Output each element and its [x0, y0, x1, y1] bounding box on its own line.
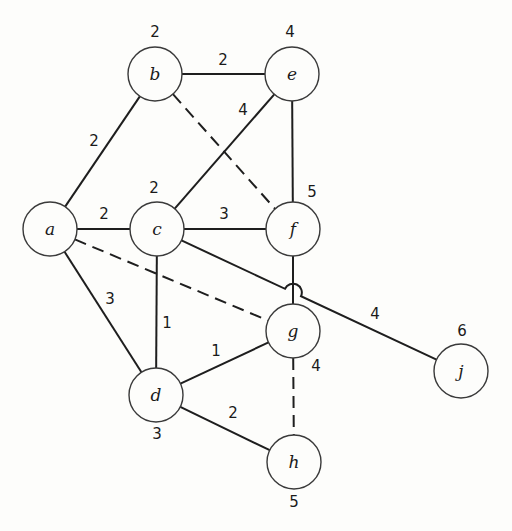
edge-weight-d-g: 1	[211, 342, 221, 360]
edge-weight-c-j: 4	[370, 305, 380, 323]
edge-d-h	[180, 407, 269, 450]
node-e: e4	[265, 23, 319, 101]
node-value: 2	[150, 23, 160, 41]
node-d: d3	[129, 368, 183, 443]
edge-weight-a-c: 2	[99, 205, 109, 223]
edge-weight-c-f: 3	[219, 205, 229, 223]
node-value: 2	[149, 179, 159, 197]
node-a: a	[23, 202, 77, 256]
edge-weight-a-d: 3	[105, 290, 115, 308]
edge-weight-c-e: 4	[238, 101, 248, 119]
node-label: g	[288, 321, 299, 341]
node-label: a	[45, 219, 55, 239]
node-label: c	[152, 219, 162, 239]
edge-weight-b-e: 2	[218, 51, 228, 69]
node-value: 6	[457, 322, 467, 340]
node-layer: ab2c2e4f5g4d3h5j6	[23, 23, 488, 511]
edge-e-f	[292, 101, 293, 202]
node-label: e	[287, 64, 297, 84]
graph-diagram: 2242331124 ab2c2e4f5g4d3h5j6	[0, 0, 512, 531]
node-j: j6	[434, 322, 488, 398]
edge-layer	[65, 74, 437, 450]
node-h: h5	[267, 435, 321, 511]
edge-weight-a-b: 2	[89, 132, 99, 150]
edge-a-d	[65, 252, 142, 372]
edge-weight-d-h: 2	[228, 404, 238, 422]
edge-d-g	[180, 342, 268, 383]
node-b: b2	[128, 23, 182, 101]
node-label: b	[150, 64, 161, 84]
node-label: d	[151, 385, 162, 405]
edge-g-h	[293, 358, 294, 435]
edge-weight-c-d: 1	[162, 314, 172, 332]
node-value: 5	[307, 183, 317, 201]
edge-a-b	[65, 96, 140, 206]
node-value: 4	[285, 23, 295, 41]
node-value: 5	[289, 493, 299, 511]
node-label: h	[289, 452, 300, 472]
node-c: c2	[130, 179, 184, 256]
node-value: 4	[311, 357, 321, 375]
node-value: 3	[152, 425, 162, 443]
